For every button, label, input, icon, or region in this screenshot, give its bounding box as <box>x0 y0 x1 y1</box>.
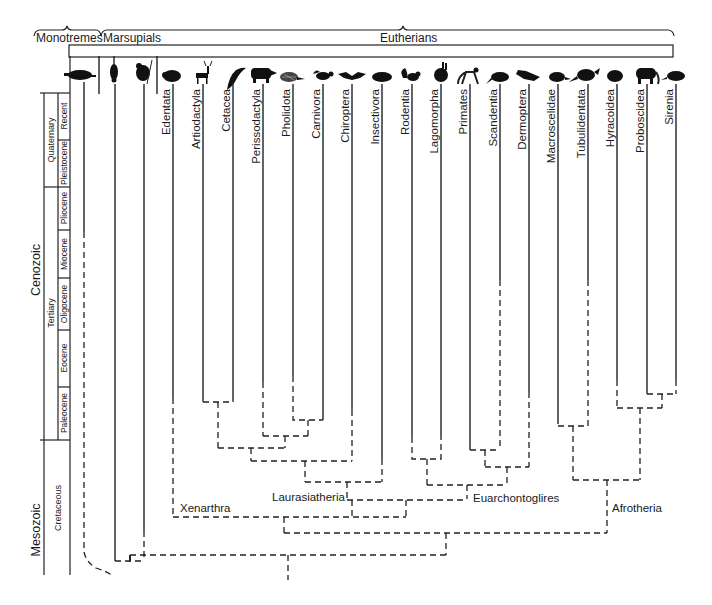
mammal-phylogeny-diagram: Monotremes Marsupials Eutherians Cenozoi… <box>0 0 712 605</box>
taxon-label-tubulidentata: Tubulidentata <box>575 88 587 158</box>
taxon-label-cetacea: Cetacea <box>220 88 232 131</box>
timescale: Cenozoic Mesozoic Quaternary Tertiary Cr… <box>29 56 70 575</box>
taxon-label-proboscidea: Proboscidea <box>634 88 646 153</box>
era-mesozoic: Mesozoic <box>29 504 43 557</box>
aardvark-icon <box>569 68 600 82</box>
marsupials-label: Marsupials <box>103 31 161 45</box>
armadillo-icon <box>162 70 181 82</box>
dolphin-icon <box>227 68 246 90</box>
group-brackets: Monotremes Marsupials Eutherians <box>34 26 674 94</box>
period-quaternary: Quaternary <box>46 117 56 163</box>
period-tertiary: Tertiary <box>46 298 56 328</box>
taxon-label-edentata: Edentata <box>160 88 172 135</box>
period-cretaceous: Cretaceous <box>53 484 63 531</box>
taxon-label-hyracoidea: Hyracoidea <box>604 88 616 147</box>
epoch-pleistocene: Pleistocene <box>59 141 69 185</box>
taxon-label-chiroptera: Chiroptera <box>339 88 351 142</box>
elephant-shrew-icon <box>549 72 571 82</box>
taxon-label-insectivora: Insectivora <box>369 88 381 144</box>
rhinoceros-icon <box>251 68 277 83</box>
elephant-icon <box>636 68 659 84</box>
squirrel-icon <box>401 68 420 81</box>
mole-icon <box>372 72 392 82</box>
taxon-label-dermoptera: Dermoptera <box>516 88 528 149</box>
koala-icon <box>136 60 152 84</box>
monotremes-label: Monotremes <box>36 31 103 45</box>
manatee-icon <box>661 71 685 81</box>
taxon-label-scandentia: Scandentia <box>487 88 499 146</box>
clade-laurasiatheria: Laurasiatheria <box>272 491 345 503</box>
bat-icon <box>338 72 366 80</box>
era-cenozoic: Cenozoic <box>29 244 43 296</box>
taxon-label-artiodactyla: Artiodactyla <box>190 88 202 149</box>
clade-euarchontoglires: Euarchontoglires <box>473 492 560 504</box>
skunk-icon <box>313 70 334 80</box>
taxon-label-rodentia: Rodentia <box>399 88 411 135</box>
platypus-icon <box>64 70 96 80</box>
taxon-labels: Edentata Artiodactyla Cetacea Perissodac… <box>160 88 675 163</box>
epoch-paleocene: Paleocene <box>59 393 69 433</box>
clade-xenarthra: Xenarthra <box>180 502 231 514</box>
pangolin-icon <box>280 72 305 82</box>
taxon-label-sirenia: Sirenia <box>663 88 675 124</box>
hyrax-icon <box>607 70 623 82</box>
epoch-miocene: Miocene <box>59 238 69 270</box>
eutherians-label: Eutherians <box>380 31 437 45</box>
tree-shrew-icon <box>486 72 509 84</box>
epoch-oligocene: Oligocene <box>59 285 69 324</box>
deer-icon <box>196 61 212 84</box>
clade-labels: Xenarthra Laurasiatheria Euarchontoglire… <box>180 491 662 514</box>
epoch-pliocene: Pliocene <box>59 191 69 224</box>
epoch-eocene: Eocene <box>59 343 69 372</box>
rabbit-icon <box>434 62 448 82</box>
taxon-label-carnivora: Carnivora <box>310 88 322 138</box>
monkey-icon <box>458 68 479 85</box>
taxon-label-pholidota: Pholidota <box>280 88 292 137</box>
colugo-icon <box>516 70 540 81</box>
taxon-label-macroscelidae: Macroscelidae <box>545 89 557 163</box>
opossum-icon <box>110 56 118 83</box>
taxon-label-lagomorpha: Lagomorpha <box>428 88 440 153</box>
eutherians-bar <box>69 45 673 57</box>
taxon-label-perissodactyla: Perissodactyla <box>250 88 262 163</box>
taxon-label-primates: Primates <box>457 89 469 135</box>
epoch-recent: Recent <box>59 102 69 130</box>
clade-afrotheria: Afrotheria <box>612 502 662 514</box>
